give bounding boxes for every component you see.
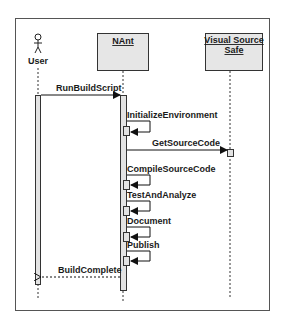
message-label: InitializeEnvironment — [127, 110, 218, 120]
participant-visual-source-safe: Visual Source Safe — [204, 34, 263, 71]
message-label: BuildComplete — [58, 265, 122, 275]
message-label: RunBuildScript — [56, 83, 122, 93]
message-label: Publish — [127, 240, 160, 250]
participant-nant: NAnt — [98, 34, 149, 71]
message-label: CompileSourceCode — [127, 164, 216, 174]
participant-label-nant: NAnt — [112, 36, 134, 46]
message-label: GetSourceCode — [152, 138, 220, 148]
activation-user — [36, 96, 41, 285]
activation-vss — [228, 150, 234, 157]
participant-label-vss-line1: Visual Source — [204, 35, 263, 45]
message-label: Document — [127, 216, 171, 226]
message-label: TestAndAnalyze — [127, 190, 196, 200]
participant-label-vss-line2: Safe — [224, 45, 243, 55]
actor-label-user: User — [28, 56, 49, 66]
sequence-diagram: User NAnt Visual Source Safe RunBuildScr… — [0, 0, 284, 327]
